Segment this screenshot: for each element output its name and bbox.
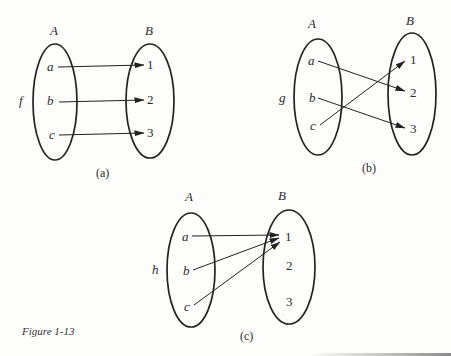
codomain-element-1: 1	[285, 229, 292, 244]
codomain-element-3: 3	[286, 294, 293, 309]
figure-caption: Figure 1-13	[21, 325, 75, 337]
set-a-ellipse	[294, 39, 342, 155]
panel-caption: (a)	[96, 166, 109, 180]
figure-page: A B f a b c 1 2 3 (a) A B g a b c 1	[0, 0, 451, 356]
arrow-a-to-1	[192, 235, 279, 236]
domain-element-a: a	[47, 59, 54, 74]
codomain-element-2: 2	[286, 258, 293, 273]
domain-element-c: c	[310, 118, 316, 133]
domain-element-a: a	[308, 53, 315, 68]
panel-a: A B f a b c 1 2 3 (a)	[19, 23, 174, 180]
set-b-label: B	[145, 23, 153, 38]
panel-caption: (c)	[240, 329, 253, 343]
domain-element-b: b	[183, 263, 190, 278]
mapping-diagram: A B f a b c 1 2 3 (a) A B g a b c 1	[0, 0, 451, 356]
arrow-b-to-1	[193, 238, 279, 270]
codomain-element-1: 1	[410, 52, 417, 67]
function-name: f	[19, 93, 25, 108]
arrow-b-to-2	[59, 100, 144, 102]
function-name: h	[152, 262, 159, 277]
codomain-element-3: 3	[147, 125, 154, 140]
set-a-ellipse	[167, 213, 215, 327]
codomain-element-2: 2	[147, 92, 154, 107]
arrow-c-to-1	[320, 61, 405, 125]
codomain-element-2: 2	[410, 85, 417, 100]
domain-element-a: a	[182, 229, 189, 244]
domain-element-c: c	[49, 127, 55, 142]
domain-element-b: b	[47, 93, 54, 108]
set-b-label: B	[278, 188, 286, 203]
set-a-label: A	[49, 23, 58, 38]
codomain-element-1: 1	[147, 57, 154, 72]
codomain-element-3: 3	[410, 121, 417, 136]
panel-b: A B g a b c 1 2 3 (b)	[279, 13, 436, 175]
arrow-b-to-3	[318, 98, 405, 128]
set-a-label: A	[307, 16, 316, 31]
arrow-a-to-2	[318, 61, 405, 91]
panel-caption: (b)	[362, 161, 376, 175]
domain-element-b: b	[309, 90, 316, 105]
set-a-label: A	[184, 189, 193, 204]
domain-element-c: c	[184, 299, 190, 314]
panel-c: A B h a b c 1 2 3 (c)	[152, 188, 315, 343]
set-b-label: B	[406, 13, 414, 28]
function-name: g	[279, 90, 286, 105]
